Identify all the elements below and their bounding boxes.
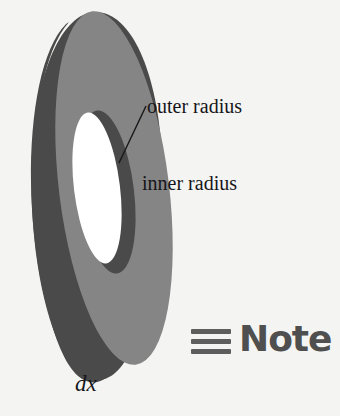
note-wordmark-text: Note (239, 321, 332, 357)
note-watermark: Note (191, 318, 316, 364)
dx-thickness-label: dx (75, 372, 97, 395)
inner-radius-label: inner radius (142, 173, 237, 193)
hamburger-bar-3 (191, 349, 231, 354)
hamburger-bar-2 (191, 339, 231, 344)
hamburger-bar-1 (191, 329, 231, 334)
washer-diagram-figure: outer radius inner radius dx Note (0, 0, 340, 416)
outer-radius-label: outer radius (147, 96, 242, 116)
hamburger-bars-icon (191, 326, 231, 356)
